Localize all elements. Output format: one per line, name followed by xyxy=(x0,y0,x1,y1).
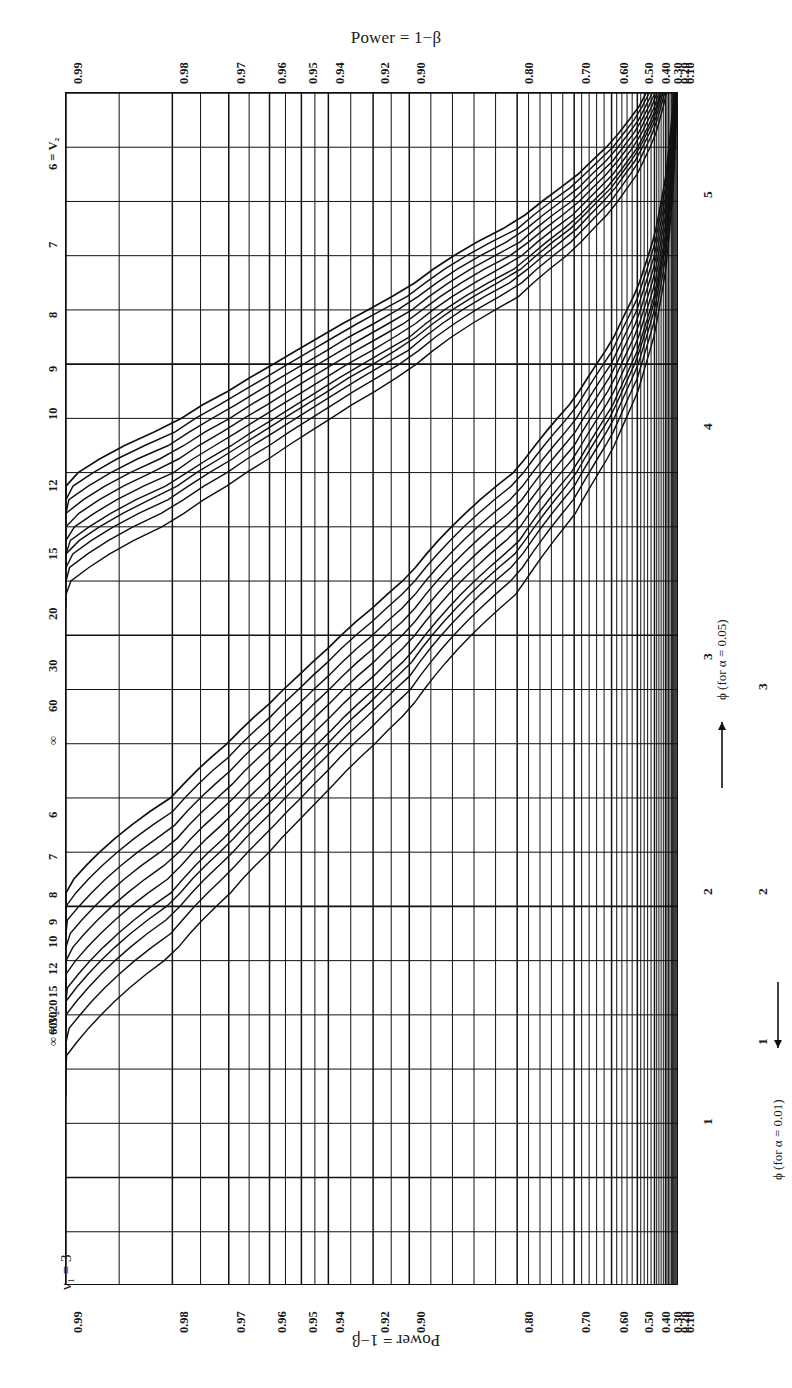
power-curve-nu2-15 xyxy=(66,93,657,540)
power-tick-label-bottom: 0.90 xyxy=(414,1311,429,1333)
curve-label-a-2: 8 xyxy=(46,312,61,318)
phi-tick-005-1: 4 xyxy=(700,423,716,430)
power-tick-label-top: 0.98 xyxy=(177,62,192,84)
power-tick-label-bottom: 0.50 xyxy=(642,1311,657,1333)
curve-label-b-2: 8 xyxy=(46,892,61,898)
curve-label-b-0: 6 xyxy=(46,812,61,818)
power-tick-label-bottom: 0.80 xyxy=(522,1311,537,1333)
bottom-title: Power = 1−β xyxy=(0,1330,792,1350)
power-curve-nu2-9 xyxy=(66,93,676,1028)
power-tick-label-bottom: 0.97 xyxy=(234,1311,249,1333)
power-curve-nu2-10 xyxy=(66,93,676,1028)
power-tick-label-top: 0.97 xyxy=(234,62,249,84)
power-tick-label-bottom: 0.99 xyxy=(71,1311,86,1333)
curve-label-a-9: 60 xyxy=(46,700,61,713)
power-tick-label-top: 0.70 xyxy=(579,62,594,84)
curve-label-b-6: 15 xyxy=(46,986,61,999)
power-tick-label-top: 0.92 xyxy=(378,62,393,84)
curve-label-b-3: 9 xyxy=(46,919,61,925)
power-tick-label-bottom: 0.60 xyxy=(617,1311,632,1333)
power-curve-nu2-9 xyxy=(66,93,662,568)
phi-axis-label-005: ϕ (for α = 0.05) xyxy=(714,619,730,700)
power-tick-label-bottom: 0.94 xyxy=(333,1311,348,1333)
phi-tick-001-0: 3 xyxy=(755,683,771,690)
power-tick-label-top: 0.90 xyxy=(414,62,429,84)
power-tick-label-top: 0.95 xyxy=(306,62,321,84)
power-tick-label-bottom: 0.95 xyxy=(306,1311,321,1333)
curve-label-a-10: ∞ xyxy=(46,736,61,745)
power-curve-nu2-30 xyxy=(66,93,652,513)
power-tick-label-top: 0.10 xyxy=(683,62,698,84)
curve-label-b-10: ∞ = V₂ xyxy=(46,1011,61,1046)
grid-and-curves xyxy=(66,93,678,1285)
phi-axis-arrow-005 xyxy=(714,720,732,790)
phi-tick-005-4: 1 xyxy=(700,1118,716,1125)
phi-tick-001-2: 1 xyxy=(755,1038,771,1045)
power-tick-label-top: 0.60 xyxy=(617,62,632,84)
power-curve-nu2-6 xyxy=(66,93,666,608)
power-curve-figure: Power = 1−β Power = 1−β 0.990.980.970.96… xyxy=(0,0,792,1388)
nu1-label: ν₁ = 3 xyxy=(58,1255,75,1290)
power-tick-label-top: 0.50 xyxy=(642,62,657,84)
curve-label-a-3: 9 xyxy=(46,366,61,372)
power-tick-label-top: 0.80 xyxy=(522,62,537,84)
curve-label-a-1: 7 xyxy=(46,242,61,248)
phi-tick-005-3: 2 xyxy=(700,888,716,895)
power-tick-label-top: 0.99 xyxy=(71,62,86,84)
phi-tick-001-1: 2 xyxy=(755,888,771,895)
top-title: Power = 1−β xyxy=(0,28,792,48)
plot-area xyxy=(65,92,678,1285)
curve-label-a-4: 10 xyxy=(46,408,61,421)
power-tick-label-bottom: 0.92 xyxy=(378,1311,393,1333)
phi-tick-005-2: 3 xyxy=(700,653,716,660)
phi-axis-label-001: ϕ (for α = 0.01) xyxy=(770,1099,786,1180)
power-curve-nu2-20 xyxy=(66,93,675,974)
power-curve-nu2-6 xyxy=(66,93,677,1096)
power-tick-label-bottom: 0.96 xyxy=(275,1311,290,1333)
phi-tick-005-0: 5 xyxy=(700,191,716,198)
power-tick-label-bottom: 0.98 xyxy=(177,1311,192,1333)
power-tick-label-bottom: 0.70 xyxy=(579,1311,594,1333)
curve-label-a-7: 20 xyxy=(46,608,61,621)
curve-label-a-6: 15 xyxy=(46,548,61,561)
power-tick-label-top: 0.94 xyxy=(333,62,348,84)
power-tick-label-top: 0.96 xyxy=(275,62,290,84)
power-curve-nu2-12 xyxy=(66,93,659,554)
power-tick-label-bottom: 0.10 xyxy=(683,1311,698,1333)
curve-label-b-4: 10 xyxy=(46,936,61,949)
curve-label-a-0: 6 = V₂ xyxy=(46,138,61,170)
curve-label-a-8: 30 xyxy=(46,660,61,673)
curve-label-b-1: 7 xyxy=(46,854,61,860)
phi-axis-arrow-001 xyxy=(770,980,788,1050)
curve-label-a-5: 12 xyxy=(46,480,61,493)
power-curve-nu2-60 xyxy=(66,93,649,513)
curve-label-b-5: 12 xyxy=(46,963,61,976)
